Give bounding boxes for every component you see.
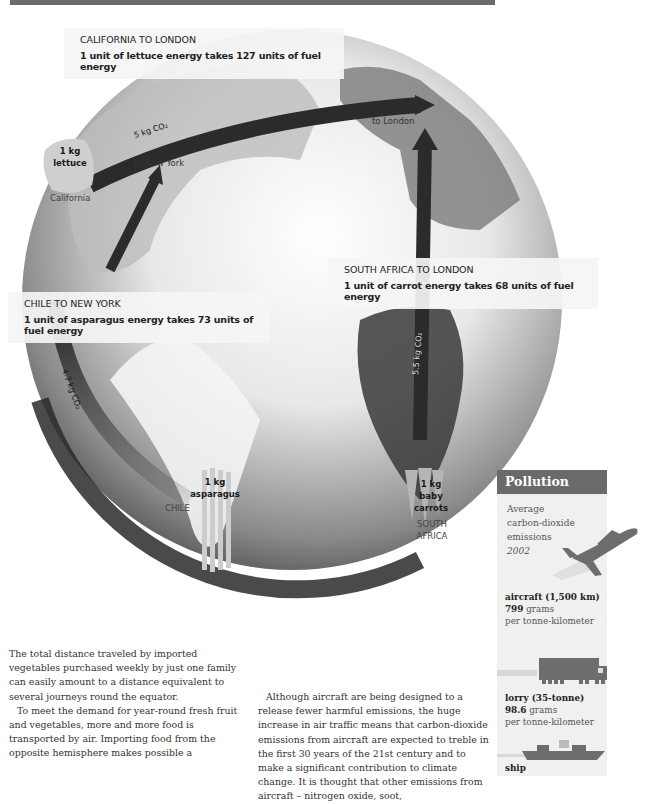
asparagus-name: asparagus bbox=[190, 488, 240, 500]
lorry-icon bbox=[497, 648, 607, 688]
stat-label: lorry (35-tonne) bbox=[505, 693, 584, 703]
carrots-name-1: baby bbox=[413, 490, 449, 502]
callout-chile-new-york: CHILE TO NEW YORK 1 unit of asparagus en… bbox=[8, 292, 270, 343]
carrots-amount: 1 kg bbox=[413, 478, 449, 490]
stat-label: aircraft (1,500 km) bbox=[505, 592, 600, 602]
stat-per: per tonne-kilometer bbox=[505, 615, 600, 627]
aircraft-icon bbox=[552, 520, 642, 580]
to-london-label: to London bbox=[372, 116, 414, 126]
lettuce-label: 1 kg lettuce bbox=[50, 145, 90, 169]
south-africa-line2: AFRICA bbox=[414, 530, 450, 542]
stat-lorry: lorry (35-tonne) 98.6 grams per tonne-ki… bbox=[505, 692, 594, 728]
lettuce-name: lettuce bbox=[50, 157, 90, 169]
route-energy: 1 unit of lettuce energy takes 127 units… bbox=[80, 50, 334, 72]
body-column-2: Although aircraft are being designed to … bbox=[258, 690, 494, 804]
route-title: CALIFORNIA TO LONDON bbox=[80, 34, 334, 45]
carrots-label: 1 kg baby carrots bbox=[413, 478, 449, 514]
carrots-name-2: carrots bbox=[413, 502, 449, 514]
route-title: SOUTH AFRICA TO LONDON bbox=[344, 264, 588, 275]
body-column-1: The total distance traveled by imported … bbox=[9, 647, 249, 761]
callout-south-africa-london: SOUTH AFRICA TO LONDON 1 unit of carrot … bbox=[328, 258, 598, 309]
stat-per: per tonne-kilometer bbox=[505, 716, 594, 728]
stat-unit: grams bbox=[529, 705, 557, 715]
to-new-york-label: to New York bbox=[134, 158, 184, 168]
asparagus-label: 1 kg asparagus bbox=[190, 476, 240, 500]
pollution-header: Pollution bbox=[497, 470, 607, 494]
ship-icon bbox=[497, 740, 607, 762]
chile-label: CHILE bbox=[165, 503, 190, 513]
pollution-sidebar: Pollution Average carbon-dioxide emissio… bbox=[497, 470, 607, 776]
body-paragraph: Although aircraft are being designed to … bbox=[258, 690, 494, 804]
stat-value: 98.6 bbox=[505, 705, 526, 715]
route-energy: 1 unit of carrot energy takes 68 units o… bbox=[344, 280, 588, 302]
body-paragraph: The total distance traveled by imported … bbox=[9, 647, 249, 704]
lettuce-amount: 1 kg bbox=[50, 145, 90, 157]
stat-ship: ship bbox=[505, 762, 526, 774]
stat-label: ship bbox=[505, 763, 526, 773]
callout-california-london: CALIFORNIA TO LONDON 1 unit of lettuce e… bbox=[64, 28, 344, 79]
intro-year: 2002 bbox=[507, 546, 530, 556]
asparagus-amount: 1 kg bbox=[190, 476, 240, 488]
stat-value: 799 bbox=[505, 604, 523, 614]
intro-line: Average bbox=[507, 502, 575, 516]
south-africa-line1: SOUTH bbox=[414, 518, 450, 530]
body-paragraph: To meet the demand for year-round fresh … bbox=[9, 704, 249, 761]
pollution-title: Pollution bbox=[497, 470, 607, 489]
south-africa-label: SOUTH AFRICA bbox=[414, 518, 450, 542]
stat-aircraft: aircraft (1,500 km) 799 grams per tonne-… bbox=[505, 591, 600, 627]
california-label: California bbox=[50, 193, 90, 203]
route-title: CHILE TO NEW YORK bbox=[24, 298, 260, 309]
route-energy: 1 unit of asparagus energy takes 73 unit… bbox=[24, 314, 260, 336]
stat-unit: grams bbox=[526, 604, 554, 614]
